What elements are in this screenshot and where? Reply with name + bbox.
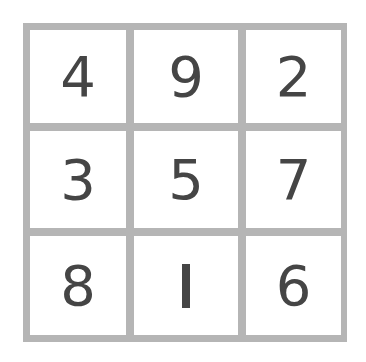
cell-r1-c2: 9: [134, 30, 238, 123]
cell-value: 1: [182, 264, 190, 308]
cell-r3-c3: 6: [246, 236, 341, 335]
cell-r3-c2: 1: [134, 236, 238, 335]
cell-value: 2: [276, 49, 312, 105]
cell-r2-c2: 5: [134, 131, 238, 228]
cell-value: 5: [168, 152, 204, 208]
magic-square-grid: 4 9 2 3 5 7 8 1 6: [23, 23, 347, 342]
cell-value: 6: [276, 258, 312, 314]
cell-r3-c1: 8: [30, 236, 126, 335]
cell-value: 3: [60, 152, 96, 208]
cell-value: 8: [60, 258, 96, 314]
cell-r1-c1: 4: [30, 30, 126, 123]
cell-r2-c1: 3: [30, 131, 126, 228]
cell-value: 4: [60, 49, 96, 105]
cell-r2-c3: 7: [246, 131, 341, 228]
cell-value: 7: [276, 152, 312, 208]
cell-value: 9: [168, 49, 204, 105]
cell-r1-c3: 2: [246, 30, 341, 123]
